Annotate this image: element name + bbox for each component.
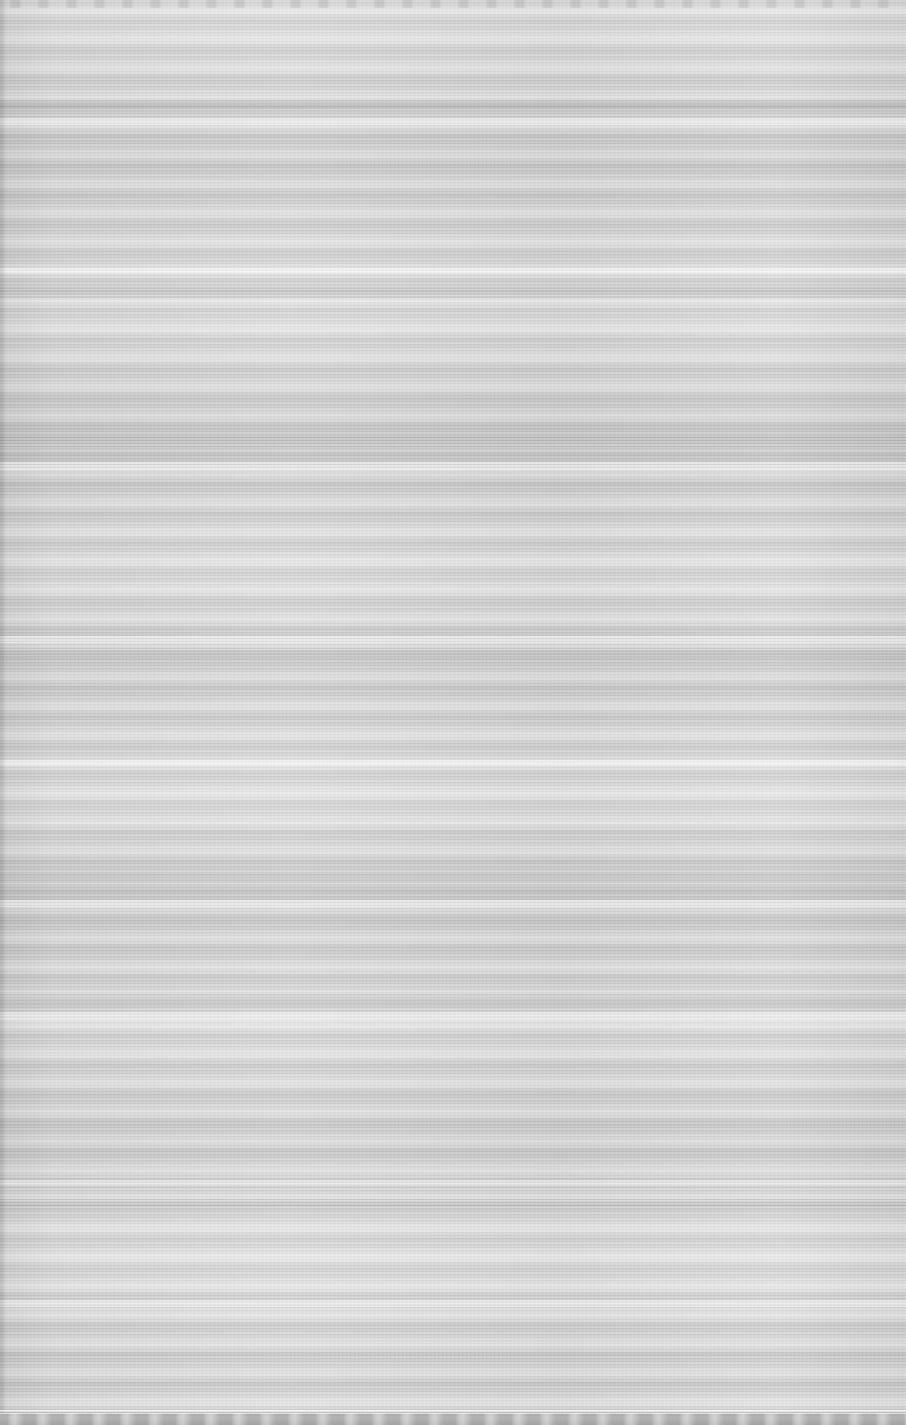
separator-band-2 (0, 288, 906, 298)
left-gutter (0, 0, 6, 1425)
bright-band-9 (0, 1300, 906, 1307)
separator-band-1 (0, 100, 906, 109)
bright-band-8 (0, 1180, 906, 1186)
bright-band-3 (0, 462, 906, 471)
bright-band-5 (0, 760, 906, 766)
separator-band-3 (0, 437, 906, 449)
separator-band-4 (0, 648, 906, 656)
separator-band-6 (0, 994, 906, 1004)
separator-band-7 (0, 1199, 906, 1207)
screenshot-canvas (0, 0, 906, 1425)
top-chrome-strip[interactable] (0, 0, 906, 8)
bright-band-4 (0, 636, 906, 643)
bright-band-1 (0, 118, 906, 125)
separator-band-5 (0, 874, 906, 883)
horizontal-luminance-drift (0, 0, 906, 1425)
bright-band-2 (0, 268, 906, 274)
bright-band-7 (0, 1012, 906, 1020)
taskbar-item-strip[interactable] (0, 1413, 906, 1425)
bottom-taskbar[interactable] (0, 1413, 906, 1425)
bright-band-6 (0, 900, 906, 907)
